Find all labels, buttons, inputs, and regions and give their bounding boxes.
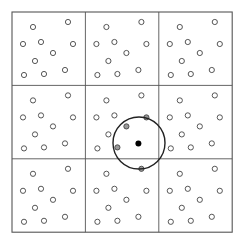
particle xyxy=(144,41,149,46)
particle xyxy=(177,98,182,103)
particle xyxy=(32,132,37,137)
particle xyxy=(185,39,190,44)
particle xyxy=(70,115,75,120)
particle xyxy=(95,219,100,224)
particle xyxy=(112,113,117,118)
particle xyxy=(209,67,214,72)
particle xyxy=(197,197,202,202)
particle xyxy=(95,72,100,77)
particle xyxy=(21,219,26,224)
particle xyxy=(217,41,222,46)
particle xyxy=(136,67,141,72)
neighbor-particle xyxy=(115,145,120,150)
particle xyxy=(41,71,46,76)
particle xyxy=(32,58,37,63)
particle xyxy=(30,98,35,103)
particle xyxy=(212,166,217,171)
particle xyxy=(32,205,37,210)
periodic-grid-diagram xyxy=(0,0,242,246)
particle xyxy=(167,188,172,193)
particle xyxy=(20,41,25,46)
particle xyxy=(168,219,173,224)
neighbor-particle xyxy=(124,124,129,129)
particle xyxy=(179,58,184,63)
particle xyxy=(94,188,99,193)
particle xyxy=(38,113,43,118)
particle xyxy=(139,93,144,98)
particle xyxy=(179,205,184,210)
particle xyxy=(212,19,217,24)
particle xyxy=(106,205,111,210)
particle xyxy=(62,141,67,146)
particle xyxy=(30,171,35,176)
particle xyxy=(168,146,173,151)
particle xyxy=(65,19,70,24)
particle xyxy=(65,93,70,98)
particles xyxy=(20,19,222,224)
particle xyxy=(21,146,26,151)
particle xyxy=(217,115,222,120)
center-particle xyxy=(135,140,141,146)
particle xyxy=(41,218,46,223)
particle xyxy=(139,19,144,24)
particle xyxy=(112,186,117,191)
particle xyxy=(197,124,202,129)
particle xyxy=(104,98,109,103)
particle xyxy=(21,72,26,77)
particle xyxy=(197,50,202,55)
particle xyxy=(50,124,55,129)
particle xyxy=(112,39,117,44)
particle xyxy=(106,58,111,63)
particle xyxy=(188,71,193,76)
particle xyxy=(41,145,46,150)
particle xyxy=(104,24,109,29)
particle xyxy=(62,67,67,72)
particle xyxy=(217,188,222,193)
particle xyxy=(30,24,35,29)
particle xyxy=(65,166,70,171)
particle xyxy=(188,218,193,223)
particle xyxy=(94,115,99,120)
particle xyxy=(38,39,43,44)
particle xyxy=(94,41,99,46)
particle xyxy=(20,115,25,120)
particle xyxy=(70,188,75,193)
particle xyxy=(70,41,75,46)
particle xyxy=(115,218,120,223)
particle xyxy=(50,197,55,202)
particle xyxy=(188,145,193,150)
particle xyxy=(209,141,214,146)
particle xyxy=(95,146,100,151)
particle xyxy=(168,72,173,77)
particle xyxy=(106,132,111,137)
particle xyxy=(212,93,217,98)
particle xyxy=(209,214,214,219)
particle xyxy=(179,132,184,137)
particle xyxy=(185,186,190,191)
particle xyxy=(167,41,172,46)
particle xyxy=(185,113,190,118)
particle xyxy=(177,24,182,29)
particle xyxy=(124,50,129,55)
particle xyxy=(104,171,109,176)
particle xyxy=(115,71,120,76)
particle xyxy=(38,186,43,191)
particle xyxy=(167,115,172,120)
particle xyxy=(62,214,67,219)
particle xyxy=(20,188,25,193)
particle xyxy=(177,171,182,176)
particle xyxy=(144,188,149,193)
particle xyxy=(124,197,129,202)
particle xyxy=(136,214,141,219)
particle xyxy=(50,50,55,55)
